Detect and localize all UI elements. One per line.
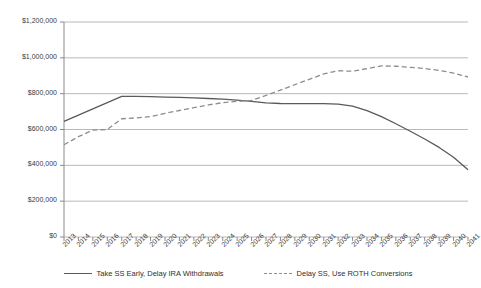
legend-label-dashed: Delay SS, Use ROTH Conversions <box>297 269 413 278</box>
y-axis-tick-label: $1,200,000 <box>0 17 57 24</box>
y-axis-tick-label: $400,000 <box>0 160 57 167</box>
series-line-2 <box>64 66 468 145</box>
chart-legend: Take SS Early, Delay IRA Withdrawals Del… <box>0 262 476 284</box>
legend-line-dashed-icon <box>264 273 292 274</box>
y-axis-tick-label: $1,000,000 <box>0 53 57 60</box>
y-axis-tick-label: $0 <box>0 232 57 239</box>
y-axis-tick-label: $800,000 <box>0 89 57 96</box>
legend-entry-dashed: Delay SS, Use ROTH Conversions <box>264 269 413 278</box>
y-axis-tick-label: $200,000 <box>0 196 57 203</box>
series-line-1 <box>64 96 468 169</box>
y-axis-tick-label: $600,000 <box>0 125 57 132</box>
legend-entry-solid: Take SS Early, Delay IRA Withdrawals <box>64 269 224 278</box>
legend-label-solid: Take SS Early, Delay IRA Withdrawals <box>97 269 224 278</box>
legend-line-solid-icon <box>64 273 92 274</box>
